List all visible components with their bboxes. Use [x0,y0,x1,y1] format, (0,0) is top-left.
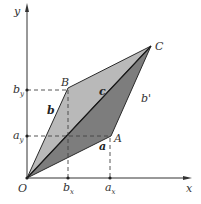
tick-label-bx: bx [63,181,74,196]
tick-bx-dot [66,176,69,179]
origin-dot [25,176,28,179]
tick-ay-dot [25,134,28,137]
tick-by-dot [25,88,28,91]
point-label-b: B [60,76,69,89]
point-label-a: A [113,132,122,145]
x-axis-label: x [186,182,193,195]
vector-c-line [27,46,151,178]
tick-ax-dot [108,176,111,179]
tick-label-ax: ax [105,181,116,196]
y-axis-arrow-icon [25,3,29,12]
y-axis-label: y [13,5,21,18]
point-label-c: C [155,40,164,53]
vector-diagram: y x O by ay bx ax A B C a b c b' [0,0,201,204]
vector-label-c: c [99,85,106,98]
vector-label-a: a [99,140,106,153]
x-axis-arrow-icon [183,176,192,180]
origin-label: O [18,182,27,195]
tick-label-ay: ay [13,129,25,144]
vector-label-b: b [47,104,55,117]
tick-label-by: by [13,83,25,98]
vector-label-b-prime: b' [141,92,151,105]
